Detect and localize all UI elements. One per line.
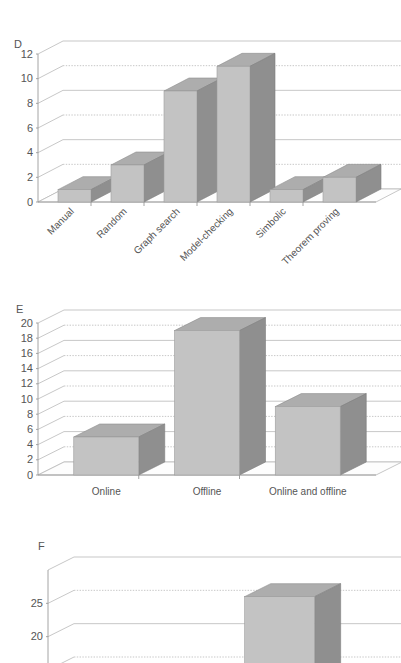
- x-tick-label: Model-checking: [178, 206, 235, 263]
- y-tick-label: 8: [27, 408, 33, 420]
- bar-column: [217, 53, 275, 202]
- grid-depth-line: [38, 66, 63, 79]
- x-tick-label: Manual: [45, 206, 76, 237]
- bar-front-face: [217, 66, 250, 202]
- y-tick-label: 0: [27, 196, 33, 208]
- bar-front-face: [58, 190, 91, 202]
- y-tick-label: 6: [27, 122, 33, 134]
- y-tick-label: 25: [31, 597, 43, 609]
- grid-depth-line: [38, 386, 64, 399]
- bar-front-face: [245, 597, 315, 663]
- grid-depth-line: [38, 140, 63, 153]
- x-tick-label: Random: [94, 206, 129, 241]
- y-tick-label: 6: [27, 423, 33, 435]
- chart-panel-F: F 152025: [0, 530, 401, 663]
- y-tick-label: 12: [21, 48, 33, 60]
- y-tick-label: 14: [21, 362, 33, 374]
- x-tick-label: Online and offline: [269, 486, 347, 497]
- y-tick-label: 4: [27, 438, 33, 450]
- bar-front-face: [323, 177, 356, 202]
- grid-depth-line: [48, 590, 74, 603]
- grid-depth-line: [38, 164, 63, 177]
- chart-F-svg: 152025: [0, 530, 401, 663]
- bar-front-face: [275, 407, 340, 475]
- grid-depth-line: [38, 340, 64, 353]
- grid-depth-line: [38, 371, 64, 384]
- bar-side-face: [250, 53, 275, 202]
- chart-E-svg: 02468101214161820OnlineOfflineOnline and…: [0, 295, 401, 530]
- grid-depth-line: [48, 557, 74, 570]
- bar-front-face: [74, 437, 139, 475]
- bar-front-face: [270, 190, 303, 202]
- x-tick-label: Graph search: [131, 206, 182, 257]
- bar-column: [245, 584, 341, 663]
- bar-column: [175, 318, 266, 475]
- bar-column: [74, 424, 165, 475]
- y-tick-label: 2: [27, 171, 33, 183]
- y-tick-label: 8: [27, 97, 33, 109]
- y-tick-label: 4: [27, 146, 33, 158]
- y-tick-label: 10: [21, 393, 33, 405]
- y-tick-label: 20: [21, 317, 33, 329]
- y-tick-label: 16: [21, 347, 33, 359]
- grid-depth-line: [38, 310, 64, 323]
- grid-depth-line: [48, 624, 74, 637]
- grid-depth-line: [38, 356, 64, 369]
- x-tick-label: Offline: [193, 486, 222, 497]
- bar-front-face: [164, 91, 197, 202]
- grid-depth-line: [38, 325, 64, 338]
- grid-depth-line: [38, 416, 64, 429]
- grid-depth-line: [38, 432, 64, 445]
- bar-column: [275, 394, 366, 475]
- y-tick-label: 0: [27, 469, 33, 481]
- grid-depth-line: [48, 657, 74, 663]
- y-tick-label: 18: [21, 332, 33, 344]
- bar-column: [164, 78, 222, 202]
- grid-depth-line: [38, 115, 63, 128]
- grid-depth-line: [38, 41, 63, 54]
- y-tick-label: 12: [21, 377, 33, 389]
- bar-side-face: [240, 318, 266, 475]
- bar-side-face: [340, 394, 366, 475]
- bar-front-face: [175, 331, 240, 475]
- grid-depth-line: [38, 401, 64, 414]
- chart-panel-D: D 024681012ManualRandomGraph searchModel…: [0, 30, 401, 295]
- chart-D-svg: 024681012ManualRandomGraph searchModel-c…: [0, 30, 401, 295]
- y-tick-label: 20: [31, 630, 43, 642]
- grid-depth-line: [38, 447, 64, 460]
- bar-front-face: [111, 165, 144, 202]
- figure-page: D 024681012ManualRandomGraph searchModel…: [0, 0, 401, 663]
- y-tick-label: 2: [27, 453, 33, 465]
- x-tick-label: Theorem proving: [280, 206, 341, 267]
- bar-side-face: [315, 584, 341, 663]
- x-tick-label: Online: [92, 486, 121, 497]
- y-tick-label: 10: [21, 72, 33, 84]
- chart-panel-E: E 02468101214161820OnlineOfflineOnline a…: [0, 295, 401, 530]
- x-tick-label: Simbolic: [253, 206, 288, 241]
- grid-depth-line: [38, 90, 63, 103]
